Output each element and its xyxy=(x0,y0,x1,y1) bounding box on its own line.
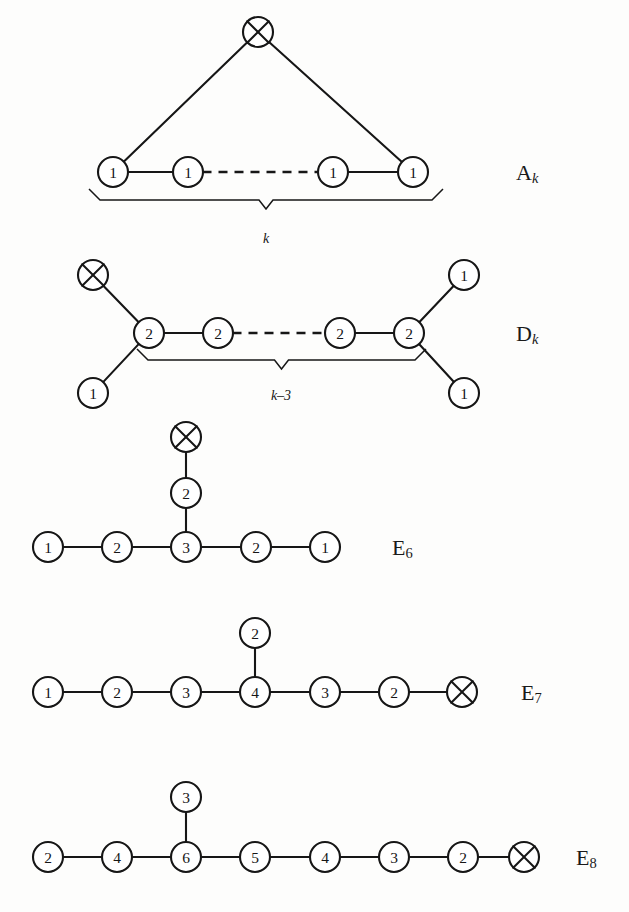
node-a-3[interactable]: 1 xyxy=(318,157,348,187)
node-value-e8-7: 2 xyxy=(459,849,467,866)
node-a-1[interactable]: 1 xyxy=(98,157,128,187)
marked-node-e6-x[interactable] xyxy=(171,422,201,452)
node-d-c3[interactable]: 2 xyxy=(325,318,355,348)
node-value-e7-3: 3 xyxy=(182,684,190,701)
brace-path-D xyxy=(137,349,426,369)
family-label-base-E7: E xyxy=(521,680,534,705)
brace-label-D: k–3 xyxy=(271,388,291,403)
edge-D-0 xyxy=(103,285,139,322)
edge-D-1 xyxy=(103,344,139,383)
node-value-d-c4: 2 xyxy=(405,325,413,342)
node-value-e8-v: 3 xyxy=(182,789,190,806)
family-label-subscript-E8: 8 xyxy=(589,855,596,871)
node-e7-4[interactable]: 4 xyxy=(240,677,270,707)
node-a-2[interactable]: 1 xyxy=(173,157,203,187)
diagram-D: 2222111k–3Dk xyxy=(78,260,539,408)
node-value-e8-2: 4 xyxy=(113,849,121,866)
node-value-a-2: 1 xyxy=(184,164,192,181)
marked-node-e7-x[interactable] xyxy=(447,677,477,707)
diagram-A: 1111kAk xyxy=(89,17,539,246)
diagram-E8: 32465432E8 xyxy=(33,782,597,872)
node-value-d-br: 1 xyxy=(460,385,468,402)
edge-D-6 xyxy=(419,344,454,383)
node-e6-2[interactable]: 2 xyxy=(102,532,132,562)
edge-D-5 xyxy=(419,286,454,323)
marked-node-a-top[interactable] xyxy=(243,17,273,47)
edge-A-1 xyxy=(269,42,402,163)
node-group-D: 2222111 xyxy=(78,260,479,408)
family-label-base-D: D xyxy=(516,321,532,346)
node-e6-5[interactable]: 1 xyxy=(310,532,340,562)
node-value-d-c3: 2 xyxy=(336,325,344,342)
node-d-br[interactable]: 1 xyxy=(449,378,479,408)
node-value-d-c1: 2 xyxy=(145,325,153,342)
node-e7-5[interactable]: 3 xyxy=(310,677,340,707)
node-value-a-3: 1 xyxy=(329,164,337,181)
node-e8-4[interactable]: 5 xyxy=(240,842,270,872)
family-label-subscript-A: k xyxy=(532,170,539,186)
node-value-e7-5: 3 xyxy=(321,684,329,701)
node-d-tr[interactable]: 1 xyxy=(449,260,479,290)
brace-D: k–3 xyxy=(137,349,426,403)
node-d-bl[interactable]: 1 xyxy=(78,378,108,408)
family-label-text-E8: E8 xyxy=(576,845,597,872)
node-e7-1[interactable]: 1 xyxy=(33,677,63,707)
node-e7-6[interactable]: 2 xyxy=(379,677,409,707)
marked-node-d-x[interactable] xyxy=(78,260,108,290)
node-value-e7-4: 4 xyxy=(251,684,259,701)
diagram-E7: 2123432E7 xyxy=(33,618,542,707)
figure-page: 1111kAk2222111k–3Dk212321E62123432E73246… xyxy=(0,0,629,912)
family-label-base-A: A xyxy=(516,160,532,185)
node-e6-1[interactable]: 1 xyxy=(33,532,63,562)
brace-path-A xyxy=(89,189,443,209)
node-value-e7-v: 2 xyxy=(251,625,259,642)
node-d-c1[interactable]: 2 xyxy=(134,318,164,348)
node-d-c4[interactable]: 2 xyxy=(394,318,424,348)
node-d-c2[interactable]: 2 xyxy=(203,318,233,348)
brace-label-A: k xyxy=(263,231,270,246)
node-value-e8-4: 5 xyxy=(251,849,259,866)
edge-group-A xyxy=(123,42,402,172)
edge-A-0 xyxy=(123,42,247,162)
node-e7-2[interactable]: 2 xyxy=(102,677,132,707)
family-label-base-E8: E xyxy=(576,845,589,870)
node-e7-3[interactable]: 3 xyxy=(171,677,201,707)
family-label-text-E7: E7 xyxy=(521,680,542,707)
node-value-e8-5: 4 xyxy=(321,849,329,866)
node-e8-7[interactable]: 2 xyxy=(448,842,478,872)
node-value-e6-5: 1 xyxy=(321,539,329,556)
node-e7-v[interactable]: 2 xyxy=(240,618,270,648)
family-label-subscript-E6: 6 xyxy=(405,545,412,561)
node-e8-3[interactable]: 6 xyxy=(171,842,201,872)
node-value-a-4: 1 xyxy=(409,164,417,181)
node-group-E6: 212321 xyxy=(33,422,340,562)
node-e8-2[interactable]: 4 xyxy=(102,842,132,872)
family-label-A: Ak xyxy=(516,160,539,187)
node-e6-v[interactable]: 2 xyxy=(171,478,201,508)
family-label-D: Dk xyxy=(516,321,539,348)
node-a-4[interactable]: 1 xyxy=(398,157,428,187)
family-label-E7: E7 xyxy=(521,680,542,707)
brace-A: k xyxy=(89,189,443,246)
node-group-A: 1111 xyxy=(98,17,428,187)
family-label-text-E6: E6 xyxy=(392,535,413,562)
node-e8-v[interactable]: 3 xyxy=(171,782,201,812)
node-value-a-1: 1 xyxy=(109,164,117,181)
dynkin-diagram-canvas: 1111kAk2222111k–3Dk212321E62123432E73246… xyxy=(0,0,629,912)
node-e6-3[interactable]: 3 xyxy=(171,532,201,562)
family-label-E6: E6 xyxy=(392,535,413,562)
diagram-E6: 212321E6 xyxy=(33,422,413,562)
node-value-d-bl: 1 xyxy=(89,385,97,402)
marked-node-e8-x[interactable] xyxy=(509,842,539,872)
node-e8-6[interactable]: 3 xyxy=(379,842,409,872)
family-label-text-A: Ak xyxy=(516,160,539,187)
node-value-e7-2: 2 xyxy=(113,684,121,701)
node-value-e8-1: 2 xyxy=(44,849,52,866)
node-value-e6-2: 2 xyxy=(113,539,121,556)
node-value-e7-6: 2 xyxy=(390,684,398,701)
node-e6-4[interactable]: 2 xyxy=(241,532,271,562)
node-value-e8-6: 3 xyxy=(390,849,398,866)
node-e8-1[interactable]: 2 xyxy=(33,842,63,872)
node-value-d-c2: 2 xyxy=(214,325,222,342)
node-e8-5[interactable]: 4 xyxy=(310,842,340,872)
